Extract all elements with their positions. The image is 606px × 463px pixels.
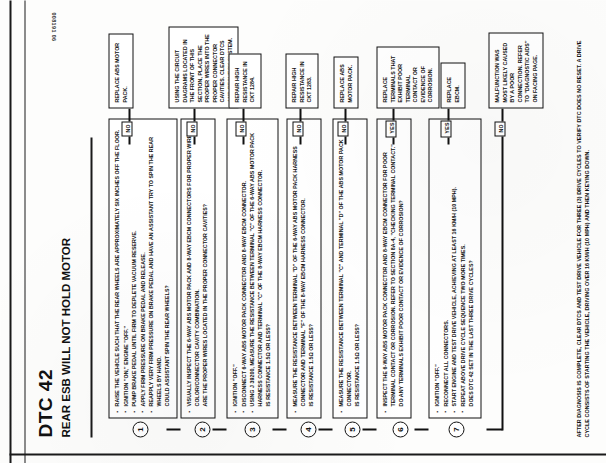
page-border-left xyxy=(9,453,606,455)
step-question-box: MEASURE THE RESISTANCE BETWEEN TERMINAL … xyxy=(332,118,367,418)
document-id: 008191 06 xyxy=(50,12,56,41)
step-line: PUMP BRAKE PEDAL UNTIL FIRM TO DEPLETE V… xyxy=(130,124,138,412)
result-text: REPLACE TERMINALS THAT EXHIBIT POOR TERM… xyxy=(381,52,434,102)
printed-sheet: DTC 42 REAR ESB WILL NOT HOLD MOTOR 0081… xyxy=(0,0,606,463)
title-underline xyxy=(90,137,92,437)
step-line: MEASURE THE RESISTANCE BETWEEN TERMINAL … xyxy=(337,124,352,412)
result-box-4: REPAIR HIGH RESISTANCE IN CKT 1283. xyxy=(285,53,318,108)
dtc-code: DTC 42 xyxy=(34,107,56,437)
flow-line-3 xyxy=(272,428,286,430)
branch-answer-6: YES xyxy=(385,120,396,137)
step-line: START ENGINE AND TEST DRIVE VEHICLE, ACH… xyxy=(450,124,458,412)
result-text: REPAIR HIGH RESISTANCE IN CKT 1284. xyxy=(233,59,256,102)
result-text: USING THE CIRCUIT DIAGRAMS LOCATED IN TH… xyxy=(173,32,233,102)
step-number: 3 xyxy=(244,421,260,437)
flow-line-1 xyxy=(166,428,180,430)
step-number: 5 xyxy=(344,421,360,437)
final-flow-line xyxy=(486,428,502,430)
result-text: REPAIR HIGH RESISTANCE IN CKT 1283. xyxy=(290,59,313,102)
step-question-box: RAISE THE VEHICLE SUCH THAT THE REAR WHE… xyxy=(108,118,177,418)
result-box-5: REPLACE ABS MOTOR PACK. xyxy=(333,56,358,108)
step-number: 4 xyxy=(300,421,316,437)
result-box-7: REPLACE EBCM. xyxy=(440,62,465,108)
branch-answer-7-yes: YES xyxy=(440,120,451,137)
step-question-box: IGNITION "OFF." DISCONNECT 6-WAY ABS MOT… xyxy=(226,118,278,418)
page-footer-note: AFTER DIAGNOSIS IS COMPLETE, CLEAR DTCs … xyxy=(574,25,590,437)
branch-answer-3: NO xyxy=(235,121,246,136)
result-box-1: REPLACE ABS MOTOR PACK. xyxy=(108,33,133,108)
step-number: 2 xyxy=(194,421,210,437)
final-branch-answer: NO xyxy=(494,121,505,136)
step-question: DOES DTC 42 SET IN THE LAST THREE DRIVE … xyxy=(467,124,475,412)
step-question: ARE THE PROPER WIRES LOCATED IN THE PROP… xyxy=(201,124,209,412)
result-box-3: REPAIR HIGH RESISTANCE IN CKT 1284. xyxy=(228,53,261,108)
result-text: REPLACE ABS MOTOR PACK. xyxy=(113,39,128,102)
flow-line-5 xyxy=(362,428,376,430)
step-line: INSPECT THE 6-WAY ABS MOTOR PACK CONNECT… xyxy=(381,124,396,412)
step-question-box: IGNITION "OFF." RECONNECT ALL CONNECTORS… xyxy=(428,118,481,418)
step-number: 1 xyxy=(132,421,148,437)
flow-line-4 xyxy=(318,428,332,430)
step-line: USING J 39200, MEASURE THE RESISTANCE BE… xyxy=(248,124,263,412)
flow-line-6 xyxy=(414,428,428,430)
step-question-box: INSPECT THE 6-WAY ABS MOTOR PACK CONNECT… xyxy=(376,118,411,418)
step-line: RECONNECT ALL CONNECTORS. xyxy=(442,124,450,412)
branch-answer-5: NO xyxy=(337,121,348,136)
final-result-box: MALFUNCTION WAS MOST LIKELY CAUSED BY A … xyxy=(488,32,543,108)
step-line: VISUALLY INSPECT THE 6-WAY ABS MOTOR PAC… xyxy=(185,124,200,412)
result-text: REPLACE EBCM. xyxy=(445,68,460,102)
step-line: IGNITION "OFF." xyxy=(433,124,441,412)
final-branch-line xyxy=(501,108,503,430)
diagnostic-chart-page: DTC 42 REAR ESB WILL NOT HOLD MOTOR 0081… xyxy=(0,0,606,463)
dtc-title: REAR ESB WILL NOT HOLD MOTOR xyxy=(59,107,72,437)
step-line: APPLY FIRM PRESSURE ON BRAKE PEDAL AND R… xyxy=(139,124,147,412)
step-question: IS RESISTANCE 1.5Ω OR LESS? xyxy=(307,124,315,412)
branch-answer-1: NO xyxy=(121,121,132,136)
step-question: DO ANY TERMINALS EXHIBIT POOR CONTACT OR… xyxy=(397,124,405,412)
branch-answer-2: NO xyxy=(186,121,197,136)
flow-line-2 xyxy=(212,428,226,430)
step-line: MEASURE THE RESISTANCE BETWEEN TERMINAL … xyxy=(291,124,306,412)
result-box-6: REPLACE TERMINALS THAT EXHIBIT POOR TERM… xyxy=(376,46,439,108)
step-question: IS RESISTANCE 1.5Ω OR LESS? xyxy=(353,124,361,412)
page-title: DTC 42 REAR ESB WILL NOT HOLD MOTOR xyxy=(34,107,72,437)
step-line: DISCONNECT 6-WAY ABS MOTOR PACK CONNECTO… xyxy=(240,124,248,412)
step-question-box: MEASURE THE RESISTANCE BETWEEN TERMINAL … xyxy=(286,118,321,418)
step-line: REAPPLY VERY FIRM PRESSURE ON BRAKE PEDA… xyxy=(147,124,162,412)
branch-answer-4: NO xyxy=(292,121,303,136)
step-question: IS RESISTANCE 1.5Ω OR LESS? xyxy=(264,124,272,412)
step-line: IGNITION "ON," ENGINE "OFF." xyxy=(122,124,130,412)
step-line: IGNITION "OFF." xyxy=(231,124,239,412)
final-result-text: MALFUNCTION WAS MOST LIKELY CAUSED BY A … xyxy=(493,38,538,102)
step-line: REPEAT ABOVE DRIVE CYCLE SEQUENCE TWO MO… xyxy=(459,124,467,412)
result-text: REPLACE ABS MOTOR PACK. xyxy=(338,62,353,102)
step-number: 6 xyxy=(392,421,408,437)
step-line: RAISE THE VEHICLE SUCH THAT THE REAR WHE… xyxy=(113,124,121,412)
step-question: COULD ASSISTANT SPIN THE REAR WHEELS? xyxy=(163,124,171,412)
page-border-top xyxy=(9,0,11,463)
step-question-box: VISUALLY INSPECT THE 6-WAY ABS MOTOR PAC… xyxy=(180,118,215,418)
page-border-top-secondary xyxy=(24,0,25,463)
step-number: 7 xyxy=(448,421,464,437)
